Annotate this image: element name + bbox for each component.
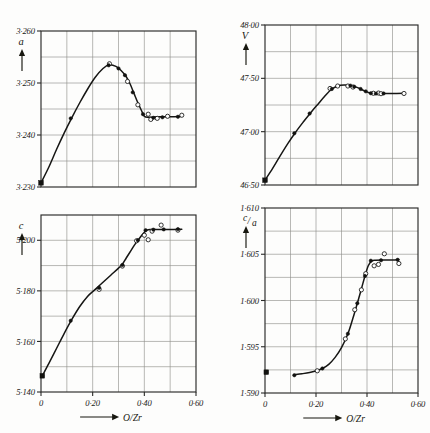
y-axis-ticks: 48·0047·5047·0046·50 [240,20,265,190]
x-tick-label: 0·20 [309,399,324,409]
origin-square-marker [39,181,44,186]
y-tick-label: 3·230 [15,182,36,192]
origin-square-marker [40,374,45,379]
data-curve [42,229,182,376]
origin-square-marker [264,370,269,375]
y-tick-label: 5·140 [16,387,36,397]
y-tick-label: 1·610 [240,203,260,213]
filled-circle-markers [41,227,180,377]
y-tick-label: 1·600 [240,296,260,306]
svg-text:/: / [247,216,252,226]
x-tick-label: 0·40 [360,399,375,409]
panel-c: 5·2005·1805·1605·140c00·200·400·60O/Zr [0,201,212,432]
open-circle-markers [97,223,180,291]
y-tick-label: 3·250 [15,78,36,88]
x-axis-ticks: 00·200·400·60 [39,392,204,408]
x-axis-label: O/Zr [346,413,365,424]
y-tick-label: 1·590 [240,388,260,398]
svg-text:a: a [252,218,257,228]
filled-circle-markers [265,258,400,377]
grid-lines [265,208,418,393]
grid-lines [41,31,196,187]
grid-lines [41,215,196,392]
filled-circle-markers [39,64,179,185]
open-circle-markers [315,252,401,373]
y-axis-label-group: V [242,30,250,65]
y-tick-label: 3·240 [15,130,36,140]
x-tick-label: 0 [39,398,44,408]
y-axis-ticks: 3·2603·2503·2403·230 [15,26,41,192]
panel-a: 3·2603·2503·2403·230a [0,17,212,227]
y-tick-label: 46·50 [240,180,260,190]
y-tick-label: 5·180 [16,286,36,296]
x-axis-ticks: 00·200·400·60 [263,393,426,409]
x-tick-label: 0·60 [189,398,204,408]
y-axis-label-group: a [18,36,25,71]
x-tick-label: 0 [263,399,268,409]
y-axis-ticks: 5·2005·1805·1605·140 [16,235,41,397]
open-circle-markers [107,62,184,122]
y-tick-label: 48·00 [240,20,260,30]
y-axis-label: c [19,220,24,231]
y-axis-label: V [242,30,250,41]
x-tick-label: 0·40 [137,398,152,408]
y-tick-label: 1·605 [240,249,260,259]
x-axis-label-group: O/Zr [80,412,142,423]
origin-square-marker [263,178,268,183]
y-tick-label: 5·200 [16,235,36,245]
y-tick-label: 47·50 [240,73,260,83]
data-curve [265,85,404,180]
x-axis-label: O/Zr [123,412,142,423]
data-curve [294,260,399,375]
y-tick-label: 1·595 [240,342,260,352]
y-tick-label: 3·260 [15,26,36,36]
y-tick-label: 47·00 [240,127,260,137]
x-tick-label: 0·60 [411,399,426,409]
x-tick-label: 0·20 [85,398,100,408]
y-axis-label-group: c/a [243,213,257,248]
panel-ca: 1·6101·6051·6001·5951·590c/a00·200·400·6… [224,194,430,433]
figure-container: 3·2603·2503·2403·230a5·2005·1805·1605·14… [0,0,430,433]
y-axis-label: a [18,36,23,47]
data-curve [41,65,182,183]
panel-v: 48·0047·5047·0046·50V [224,11,430,225]
y-tick-label: 5·160 [16,337,36,347]
grid-lines [265,25,418,185]
x-axis-label-group: O/Zr [303,413,365,424]
